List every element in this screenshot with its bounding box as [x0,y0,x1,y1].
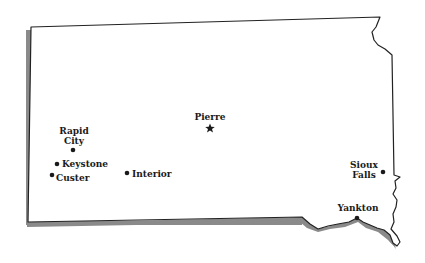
city-label-yankton: Yankton [337,203,378,213]
city-label-sioux-falls: Sioux Falls [350,160,378,180]
city-label-rapid-city-line1: Rapid [59,126,89,136]
city-dot-interior[interactable] [125,171,130,176]
city-label-custer: Custer [56,173,89,183]
city-dot-yankton[interactable] [355,216,360,221]
city-label-rapid-city-line2: City [59,136,89,146]
city-dot-rapid-city[interactable] [71,148,76,153]
capital-label-pierre: Pierre [194,112,225,122]
city-label-keystone: Keystone [62,159,108,169]
city-label-sioux-falls-line2: Falls [350,170,378,180]
city-dot-keystone[interactable] [55,162,60,167]
city-dot-sioux-falls[interactable] [381,170,386,175]
city-dot-custer[interactable] [50,173,55,178]
city-label-rapid-city: Rapid City [59,126,89,146]
city-label-sioux-falls-line1: Sioux [350,160,378,170]
city-label-interior: Interior [132,169,172,179]
